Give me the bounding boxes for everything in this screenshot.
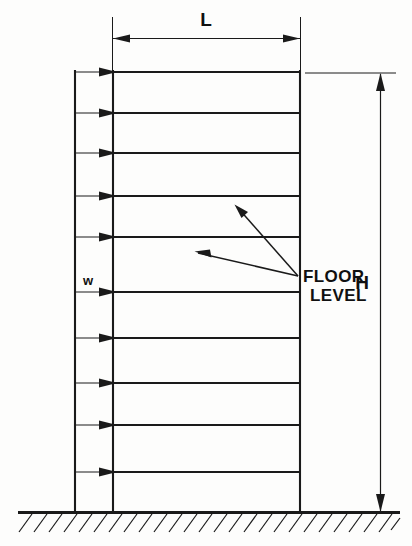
arrow-down-icon — [376, 494, 385, 512]
ground-hatching — [19, 514, 400, 532]
label-L: L — [200, 9, 212, 30]
building-load-diagram: L — [0, 0, 412, 546]
load-arrow — [75, 192, 117, 201]
load-arrow — [75, 379, 117, 388]
label-w: w — [82, 273, 94, 288]
arrow-up-icon — [376, 73, 385, 91]
engineering-diagram: L — [0, 0, 412, 546]
load-arrow — [75, 68, 117, 77]
lateral-load-w: w — [75, 68, 117, 514]
floor-leader-upper — [238, 208, 298, 276]
leader-arrow-icon — [195, 250, 212, 258]
arrow-right-icon — [283, 35, 300, 43]
ground-support — [18, 513, 400, 533]
building-frame — [112, 71, 301, 513]
load-arrow — [75, 149, 117, 158]
load-arrow — [75, 233, 117, 242]
floor-leader-lower — [198, 253, 298, 276]
load-arrow — [75, 288, 117, 297]
label-H: H — [355, 272, 369, 293]
arrow-left-icon — [113, 35, 130, 43]
load-arrow — [75, 334, 117, 343]
dimension-L: L — [113, 9, 301, 70]
load-arrow — [75, 421, 117, 430]
load-arrow — [75, 109, 117, 118]
floor-level-annotation: FLOOR LEVEL — [195, 205, 367, 306]
load-arrow — [75, 468, 117, 477]
